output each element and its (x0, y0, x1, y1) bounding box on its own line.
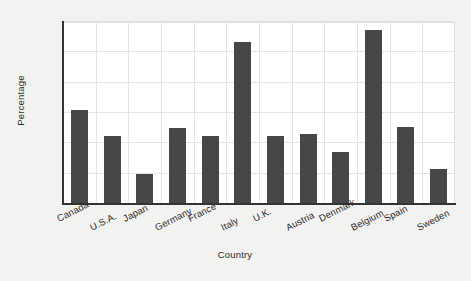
bar (136, 174, 153, 204)
gridline-vertical (128, 23, 129, 204)
gridline-horizontal (63, 21, 454, 22)
x-tick-label: U.K. (251, 205, 273, 223)
plot-area (63, 22, 455, 204)
y-axis-title: Percentage (15, 51, 26, 151)
x-tick-label: U.S.A. (88, 210, 118, 233)
gridline-vertical (194, 23, 195, 204)
bar (300, 134, 317, 204)
bar (397, 127, 414, 204)
x-tick-label: Sweden (415, 207, 451, 233)
gridline-vertical (357, 23, 358, 204)
bar (234, 42, 251, 204)
gridline-vertical (259, 23, 260, 204)
bar (169, 128, 186, 204)
gridline-vertical (390, 23, 391, 204)
bar (430, 169, 447, 204)
gridline-vertical (324, 23, 325, 204)
x-axis-line (62, 203, 456, 205)
x-tick-label: Belgium (349, 207, 385, 233)
x-tick-label: Japan (121, 202, 150, 224)
gridline-vertical (96, 23, 97, 204)
bar (332, 152, 349, 204)
gridline-vertical (422, 23, 423, 204)
bar-chart: Percentage Country 020406080100120 Canad… (0, 0, 471, 281)
y-axis-line (62, 21, 64, 205)
gridline-vertical (292, 23, 293, 204)
bar (202, 136, 219, 204)
gridline-vertical (161, 23, 162, 204)
x-tick-label: Austria (284, 209, 316, 233)
x-tick-label: Spain (382, 203, 409, 224)
bar (71, 110, 88, 204)
bar (365, 30, 382, 204)
bar (104, 136, 121, 204)
gridline-vertical (226, 23, 227, 204)
x-tick-label: Italy (219, 215, 240, 233)
bar (267, 136, 284, 204)
x-axis-title: Country (160, 249, 310, 260)
